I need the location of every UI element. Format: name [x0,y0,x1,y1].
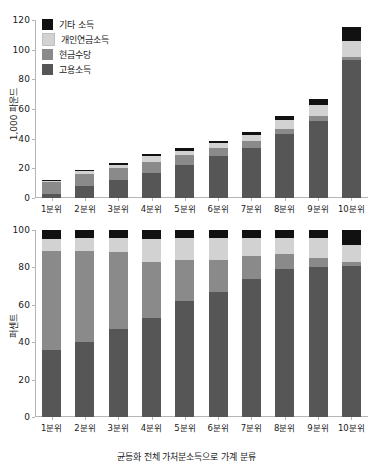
bar-segment [175,230,194,237]
x-tick-label-3: 3분위 [108,421,129,433]
y-tick-label: 20 [18,163,35,173]
bar-segment [42,239,61,250]
x-tick-mark [218,198,219,201]
bar-1 [42,230,61,417]
x-tick-label-4: 4분위 [141,421,162,433]
bar-8 [275,230,294,417]
x-tick-mark [118,417,119,420]
x-tick-mark [318,417,319,420]
y-tick-label: 100 [13,45,35,55]
bar-5 [175,148,194,198]
y-tick-label: 20 [18,375,35,385]
bar-6 [209,141,228,198]
y-tick-label: 60 [18,300,35,310]
bar-segment [209,292,228,417]
legend-item-employment_income: 고용소득 [42,63,109,75]
bar-segment [342,245,361,262]
bar-segment [109,230,128,237]
legend-swatch-icon [42,64,53,75]
bar-segment [142,262,161,318]
x-tick-mark [351,417,352,420]
y-tick-label: 60 [18,104,35,114]
y-tick-label: 100 [13,225,35,235]
bar-segment [42,230,61,239]
x-tick-mark [351,198,352,201]
x-axis-title: 균등화 전체 가처분소득으로 가계 분류 [0,450,373,463]
legend-swatch-icon [42,19,53,30]
bar-segment [175,155,194,165]
bar-segment [109,168,128,180]
bottom-panel-y-axis-title: 퍼센트 [7,314,20,338]
bar-segment [75,174,94,187]
x-tick-label-7: 7분위 [241,421,262,433]
y-tick-label: 80 [18,262,35,272]
legend-item-private_pension_income: 개인연금소득 [42,33,109,45]
bar-segment [342,230,361,245]
x-tick-mark [85,198,86,201]
bar-4 [142,154,161,199]
bar-segment [209,148,228,156]
x-tick-label-1: 1분위 [41,421,62,433]
bar-segment [309,258,328,267]
x-tick-label-9: 9분위 [307,421,328,433]
bar-segment [42,194,61,198]
bar-segment [75,342,94,417]
legend-swatch-icon [42,33,55,46]
bar-segment [142,239,161,261]
bar-segment [175,238,194,260]
x-tick-mark [185,417,186,420]
bar-segment [242,141,261,148]
bottom-panel: 020406080100 1분위2분위3분위4분위5분위6분위7분위8분위9분위… [0,213,373,470]
bar-segment [275,230,294,237]
bar-segment [75,238,94,251]
bar-segment [75,186,94,198]
bar-10 [342,27,361,198]
legend-item-label: 개인연금소득 [61,33,109,46]
y-tick-label: 0 [24,412,35,422]
x-tick-mark [85,417,86,420]
bar-5 [175,230,194,417]
bar-segment [109,238,128,253]
bar-segment [309,238,328,259]
bar-4 [142,230,161,417]
bar-segment [275,269,294,417]
stacked-bar-chart-figure: 020406080100120 1분위2분위3분위4분위5분위6분위7분위8분위… [0,0,373,470]
bar-8 [275,116,294,198]
bar-segment [75,251,94,343]
bar-segment [242,230,261,237]
legend-item-label: 현금수당 [59,48,91,61]
x-tick-mark [285,417,286,420]
bar-segment [309,105,328,116]
x-tick-label-10: 10분위 [338,421,365,433]
bar-segment [342,60,361,198]
bar-9 [309,99,328,198]
bar-segment [342,27,361,40]
x-tick-mark [318,198,319,201]
bar-2 [75,230,94,417]
bar-segment [342,266,361,417]
x-tick-mark [251,198,252,201]
bar-segment [242,148,261,198]
bar-segment [309,230,328,237]
legend-item-label: 고용소득 [59,63,91,76]
bar-segment [142,156,161,163]
bar-segment [175,260,194,301]
bar-7 [242,230,261,417]
bar-segment [209,238,228,260]
bar-segment [142,230,161,239]
bar-2 [75,170,94,198]
y-tick-label: 80 [18,74,35,84]
bar-segment [175,165,194,198]
bar-segment [109,180,128,198]
bar-3 [109,230,128,417]
bar-7 [242,132,261,198]
bar-segment [309,121,328,198]
x-tick-mark [152,417,153,420]
bar-segment [342,41,361,57]
legend-item-other_income: 기타 소득 [42,18,109,30]
y-tick-label: 0 [24,193,35,203]
x-tick-label-6: 6분위 [207,421,228,433]
y-tick-label: 40 [18,134,35,144]
bar-segment [275,120,294,129]
bar-9 [309,230,328,417]
